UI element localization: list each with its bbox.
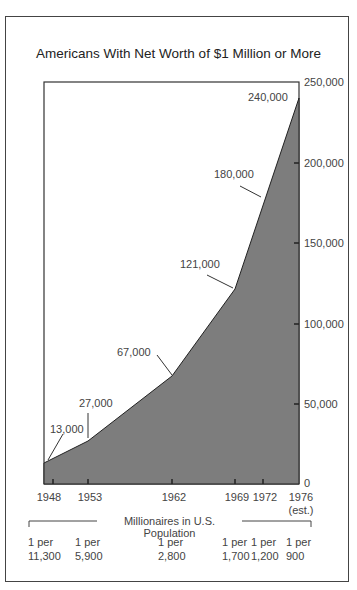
y-label-100000: 100,000 <box>304 318 344 330</box>
ratio-1976: 1 per 900 <box>286 535 311 563</box>
point-label-1969: 121,000 <box>180 258 220 270</box>
ratio-1976-value: 900 <box>286 549 311 563</box>
y-label-0: 0 <box>304 477 310 489</box>
point-label-1953: 27,000 <box>79 397 113 409</box>
y-label-250000: 250,000 <box>304 76 344 88</box>
point-label-1972: 180,000 <box>214 168 254 180</box>
ratio-1953: 1 per 5,900 <box>75 535 103 563</box>
ratio-1969-value: 1,700 <box>222 549 250 563</box>
ratio-1962-value: 2,800 <box>158 549 186 563</box>
x-label-1962: 1962 <box>154 491 194 503</box>
y-label-200000: 200,000 <box>304 157 344 169</box>
x-label-1972: 1972 <box>245 491 285 503</box>
ratio-1969: 1 per 1,700 <box>222 535 250 563</box>
point-label-1976: 240,000 <box>248 91 288 103</box>
ratio-1972-prefix: 1 per <box>251 535 279 549</box>
x-label-1953: 1953 <box>70 491 110 503</box>
x-label-1976: 1976 <box>281 491 321 503</box>
y-label-150000: 150,000 <box>304 237 344 249</box>
ratio-1953-prefix: 1 per <box>75 535 103 549</box>
x-label-1948: 1948 <box>29 491 69 503</box>
ratio-1953-value: 5,900 <box>75 549 103 563</box>
ratio-1972: 1 per 1,200 <box>251 535 279 563</box>
ratio-1948-value: 11,300 <box>28 549 61 563</box>
point-label-1948: 13,000 <box>50 423 84 435</box>
ratio-1948-prefix: 1 per <box>28 535 61 549</box>
ratio-1972-value: 1,200 <box>251 549 279 563</box>
point-label-1962: 67,000 <box>117 346 151 358</box>
y-label-50000: 50,000 <box>304 398 338 410</box>
ratio-1969-prefix: 1 per <box>222 535 250 549</box>
ratio-1962-prefix: 1 per <box>158 535 186 549</box>
x-label-est: (est.) <box>281 504 321 516</box>
ratio-1962: 1 per 2,800 <box>158 535 186 563</box>
ratio-1976-prefix: 1 per <box>286 535 311 549</box>
ratio-1948: 1 per 11,300 <box>28 535 61 563</box>
